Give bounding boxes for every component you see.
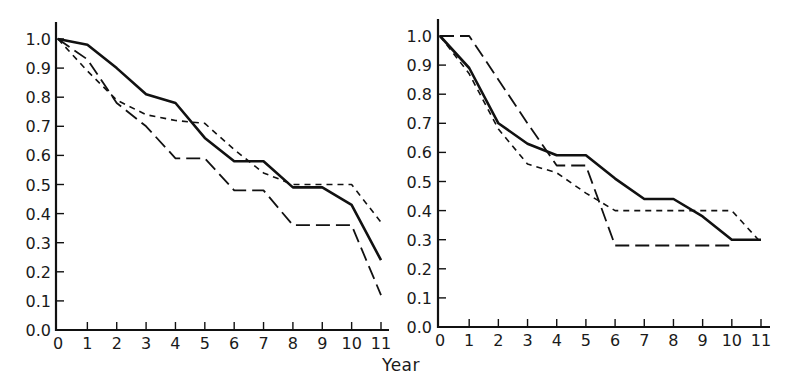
x-tick-label: 2 [493,331,503,350]
y-tick-label: 0.0 [26,321,51,340]
y-tick-label: 0.3 [26,234,51,253]
y-tick-label: 0.5 [26,176,51,195]
x-tick-label: 10 [722,331,742,350]
x-tick-label: 6 [610,331,620,350]
y-tick-label: 0.4 [407,202,432,221]
y-tick-label: 0.1 [26,292,51,311]
x-tick-label: 0 [53,334,63,353]
y-tick-label: 0.9 [407,56,432,75]
x-tick-label: 11 [751,331,771,350]
series-line-solid [58,39,381,260]
y-tick-label: 0.5 [407,173,432,192]
x-tick-label: 4 [170,334,180,353]
y-tick-label: 0.6 [26,146,51,165]
x-tick-label: 6 [229,334,239,353]
x-tick-label: 7 [639,331,649,350]
x-tick-label: 9 [698,331,708,350]
y-tick-label: 0.7 [26,117,51,136]
x-tick-label: 9 [317,334,327,353]
x-tick-label: 8 [668,331,678,350]
y-tick-label: 0.2 [407,260,432,279]
y-tick-label: 1.0 [26,30,51,49]
y-tick-label: 0.2 [26,263,51,282]
y-tick-label: 0.9 [26,59,51,78]
series-line-short-dash [440,36,761,243]
series-line-long-dash [58,39,381,295]
right-chart-panel: 0.00.10.20.30.40.50.60.70.80.91.00123456… [407,19,772,350]
x-tick-label: 2 [112,334,122,353]
x-tick-label: 0 [435,331,445,350]
y-tick-label: 0.4 [26,205,51,224]
y-tick-label: 0.8 [407,85,432,104]
x-tick-label: 11 [371,334,391,353]
y-tick-label: 0.3 [407,231,432,250]
y-tick-label: 0.7 [407,114,432,133]
x-axis-title: Year [382,355,420,375]
x-tick-label: 3 [522,331,532,350]
left-chart-panel: 0.00.10.20.30.40.50.60.70.80.91.00123456… [26,22,392,353]
line-charts: 0.00.10.20.30.40.50.60.70.80.91.00123456… [0,0,788,392]
x-tick-label: 7 [258,334,268,353]
axis-lines [56,22,389,330]
figure: 0.00.10.20.30.40.50.60.70.80.91.00123456… [0,0,788,392]
y-tick-label: 0.8 [26,88,51,107]
y-tick-label: 0.1 [407,289,432,308]
x-tick-label: 10 [341,334,361,353]
x-tick-label: 3 [141,334,151,353]
x-tick-label: 1 [82,334,92,353]
x-tick-label: 5 [581,331,591,350]
x-tick-label: 5 [200,334,210,353]
x-tick-label: 1 [464,331,474,350]
y-tick-label: 0.0 [407,318,432,337]
series-line-long-dash [440,36,732,246]
x-tick-label: 8 [288,334,298,353]
y-tick-label: 0.6 [407,143,432,162]
series-line-solid [440,36,761,240]
x-tick-label: 4 [552,331,562,350]
y-tick-label: 1.0 [407,27,432,46]
